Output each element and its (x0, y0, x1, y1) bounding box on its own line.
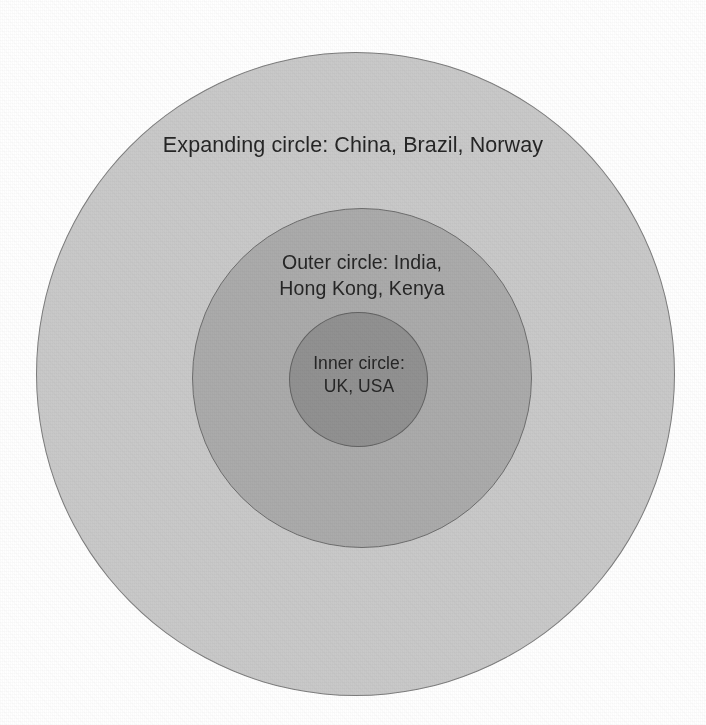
concentric-circles-diagram: Expanding circle: China, Brazil, Norway … (0, 0, 706, 725)
expanding-circle-label: Expanding circle: China, Brazil, Norway (103, 131, 603, 159)
inner-circle-label: Inner circle: UK, USA (274, 352, 444, 398)
outer-circle-label: Outer circle: India, Hong Kong, Kenya (212, 250, 512, 301)
